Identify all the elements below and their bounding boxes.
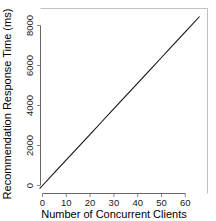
x-tick-label-60: 60 bbox=[180, 197, 191, 208]
x-tick-label-0: 0 bbox=[40, 197, 45, 208]
y-tick-label-6000: 6000 bbox=[24, 55, 35, 76]
y-tick-label-2000: 2000 bbox=[24, 135, 35, 156]
data-series-group bbox=[40, 17, 200, 189]
x-axis-title: Number of Concurrent Clients bbox=[41, 208, 187, 220]
x-tick-label-20: 20 bbox=[85, 197, 96, 208]
x-tick-label-50: 50 bbox=[156, 197, 167, 208]
x-axis-tick-labels: 0 10 20 30 40 50 60 bbox=[40, 197, 191, 208]
chart-figure: 0 2000 4000 6000 8000 0 10 20 30 40 50 6… bbox=[0, 0, 216, 221]
data-line-recommendation-response-time bbox=[40, 17, 200, 189]
y-tick-label-4000: 4000 bbox=[24, 95, 35, 116]
y-axis-title: Recommendation Response Time (ms) bbox=[1, 9, 13, 200]
x-tick-label-10: 10 bbox=[61, 197, 72, 208]
y-tick-label-0: 0 bbox=[24, 183, 35, 188]
x-tick-label-30: 30 bbox=[109, 197, 120, 208]
chart-canvas: 0 2000 4000 6000 8000 0 10 20 30 40 50 6… bbox=[0, 0, 216, 221]
y-tick-label-8000: 8000 bbox=[24, 15, 35, 36]
y-axis-tick-labels: 0 2000 4000 6000 8000 bbox=[24, 15, 35, 188]
y-axis-ticks bbox=[37, 26, 41, 186]
x-tick-label-40: 40 bbox=[132, 197, 143, 208]
